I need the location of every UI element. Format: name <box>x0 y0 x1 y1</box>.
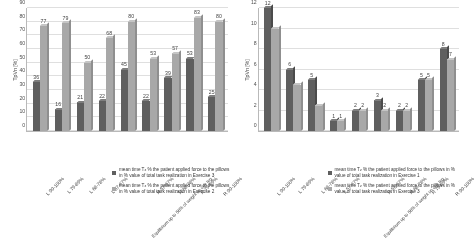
bar: 2 <box>396 111 403 132</box>
bar-value-label: 5 <box>427 72 430 78</box>
bar: 57 <box>172 53 179 131</box>
bar-value-label: 22 <box>99 93 105 99</box>
bar: 22 <box>99 101 106 131</box>
x-axis-tick-label: L 79-89% <box>66 176 85 195</box>
bar: 6 <box>286 70 293 132</box>
chart-panel-left: TpVn [%] 0102030405060708090 36771679215… <box>0 0 232 244</box>
legend-right: mean time Tz % the patient applied force… <box>328 167 460 198</box>
bar: 68 <box>106 38 113 131</box>
bar-group: 11 <box>326 8 348 131</box>
bar-value-label: 1 <box>339 113 342 119</box>
bar-group: 22 <box>348 8 370 131</box>
plot-area-right: TpVn [%] 024681012 1265112232225587 <box>258 8 460 132</box>
bar-value-label: 39 <box>165 70 171 76</box>
bar-group: 5 <box>304 8 326 131</box>
bar-value-label: 53 <box>150 50 156 56</box>
y-axis-tick-label: 10 <box>19 108 25 114</box>
y-axis-tick-label: 8 <box>254 40 257 46</box>
chart-panel-right: TpVn [%] 024681012 1265112232225587 L 90… <box>232 0 464 244</box>
bar-value-label: 2 <box>361 102 364 108</box>
bar-value-label: 1 <box>332 113 335 119</box>
bar-value-label: 2 <box>354 102 357 108</box>
bar-value-label: 21 <box>77 94 83 100</box>
bar-value-label: 68 <box>106 30 112 36</box>
bar-value-label: 8 <box>442 41 445 47</box>
bar: 53 <box>150 59 157 131</box>
bar-group: 5383 <box>183 8 205 131</box>
bar-series-right: 1265112232225587 <box>261 8 459 131</box>
bar-value-label: 5 <box>420 72 423 78</box>
legend-label: mean time Tz % the patient applied force… <box>335 167 460 180</box>
y-axis-tick-label: 80 <box>19 13 25 19</box>
legend-swatch <box>112 171 116 175</box>
bar-group: 55 <box>414 8 436 131</box>
bar-value-label: 25 <box>209 89 215 95</box>
bar: 83 <box>194 18 201 131</box>
bar-value-label: 83 <box>194 9 200 15</box>
plot-area-left: TpVn [%] 0102030405060708090 36771679215… <box>26 8 228 132</box>
bar-value-label: 57 <box>172 45 178 51</box>
y-axis-tick-label: 60 <box>19 40 25 46</box>
bar-value-label: 45 <box>121 61 127 67</box>
bar: 25 <box>208 97 215 131</box>
bar-group: 1679 <box>51 8 73 131</box>
y-axis-tick-label: 2 <box>254 102 257 108</box>
legend-swatch <box>112 187 116 191</box>
y-axis-tick-label: 12 <box>251 0 257 5</box>
bar: 8 <box>440 49 447 131</box>
bar-group: 3677 <box>29 8 51 131</box>
bar: 2 <box>403 111 410 132</box>
bar: 5 <box>418 80 425 131</box>
y-axis-title-right: TpVn [%] <box>243 59 249 80</box>
bar: 2 <box>359 111 366 132</box>
bar-value-label: 6 <box>288 61 291 67</box>
legend-label: mean time Tz % the patient applied force… <box>119 183 230 196</box>
bar-group: 2580 <box>205 8 227 131</box>
bar: 53 <box>186 59 193 131</box>
legend-item: mean time Tz % the patient applied force… <box>328 167 460 180</box>
y-axis-tick-label: 70 <box>19 26 25 32</box>
bar-value-label: 53 <box>187 50 193 56</box>
y-axis-tick-label: 10 <box>251 20 257 26</box>
bar: 80 <box>128 22 135 131</box>
bar-value-label: 80 <box>216 13 222 19</box>
bar: 16 <box>55 109 62 131</box>
y-axis-tick-label: 6 <box>254 61 257 67</box>
bar-series-left: 367716792150226845802253395753832580 <box>29 8 227 131</box>
bar: 39 <box>164 78 171 131</box>
bar: 3 <box>374 100 381 131</box>
bar-value-label: 5 <box>310 72 313 78</box>
bar: 22 <box>142 101 149 131</box>
bar-group: 12 <box>261 8 283 131</box>
bar <box>293 85 300 131</box>
plot-left: 0102030405060708090 36771679215022684580… <box>26 8 228 132</box>
bar: 50 <box>84 63 91 131</box>
y-axis-tick-label: 30 <box>19 81 25 87</box>
bar: 21 <box>77 102 84 131</box>
bar-group: 4580 <box>117 8 139 131</box>
legend-swatch <box>328 171 332 175</box>
bar-value-label: 79 <box>62 15 68 21</box>
bar: 2 <box>352 111 359 132</box>
bar: 5 <box>425 80 432 131</box>
bar-group: 2150 <box>73 8 95 131</box>
bar-value-label: 12 <box>265 0 271 6</box>
bar: 12 <box>264 8 271 131</box>
bar-group: 6 <box>282 8 304 131</box>
bar: 2 <box>381 111 388 132</box>
bar-group: 2253 <box>139 8 161 131</box>
legend-item: mean time Tz % the patient applied force… <box>112 167 230 180</box>
legend-swatch <box>328 187 332 191</box>
bar-value-label: 2 <box>398 102 401 108</box>
bar-group: 22 <box>392 8 414 131</box>
bar: 1 <box>330 121 337 131</box>
bar-value-label: 16 <box>55 101 61 107</box>
x-axis-tick-label: L 68-78% <box>88 176 107 195</box>
bar-value-label: 50 <box>84 54 90 60</box>
legend-label: mean time Tz % the patient applied force… <box>335 183 460 196</box>
bar-group: 3957 <box>161 8 183 131</box>
bar: 1 <box>337 121 344 131</box>
bar-group: 2268 <box>95 8 117 131</box>
bar: 7 <box>447 59 454 131</box>
bar-value-label: 2 <box>405 102 408 108</box>
